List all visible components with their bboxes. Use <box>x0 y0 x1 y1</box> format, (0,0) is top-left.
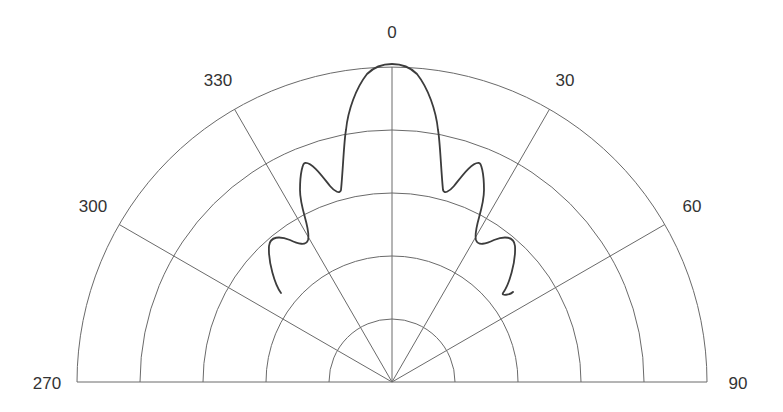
label-300: 300 <box>79 197 107 216</box>
spoke-330 <box>235 109 393 382</box>
label-60: 60 <box>683 197 702 216</box>
spoke-60 <box>392 225 665 383</box>
label-0: 0 <box>387 23 396 42</box>
spoke-300 <box>119 225 392 383</box>
polar-chart: 0 30 60 90 330 300 270 <box>0 0 783 412</box>
angular-spokes <box>77 67 707 382</box>
label-270: 270 <box>33 374 61 393</box>
label-330: 330 <box>204 71 232 90</box>
spoke-30 <box>392 109 550 382</box>
label-90: 90 <box>729 374 748 393</box>
label-30: 30 <box>556 71 575 90</box>
